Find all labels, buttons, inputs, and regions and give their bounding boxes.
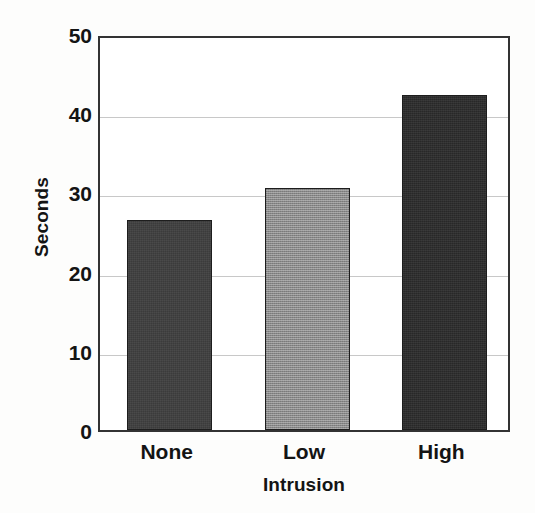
x-tick-label-none: None (98, 441, 235, 462)
bar-chart-figure: Seconds 01020304050 NoneLowHigh Intrusio… (0, 0, 535, 513)
bar-high (402, 95, 487, 430)
y-tick-label-0: 0 (48, 421, 92, 442)
x-tick-label-high: High (373, 441, 510, 462)
bar-none (127, 220, 212, 430)
x-axis-tick-labels: NoneLowHigh (98, 441, 510, 471)
y-tick-label-50: 50 (48, 25, 92, 46)
y-tick-label-40: 40 (48, 104, 92, 125)
y-tick-label-10: 10 (48, 342, 92, 363)
plot-area (98, 36, 510, 432)
bar-low (265, 188, 350, 430)
y-axis-tick-labels: 01020304050 (40, 0, 92, 513)
y-tick-label-20: 20 (48, 263, 92, 284)
y-tick-label-30: 30 (48, 183, 92, 204)
x-axis-title: Intrusion (98, 474, 510, 496)
x-tick-label-low: Low (235, 441, 372, 462)
